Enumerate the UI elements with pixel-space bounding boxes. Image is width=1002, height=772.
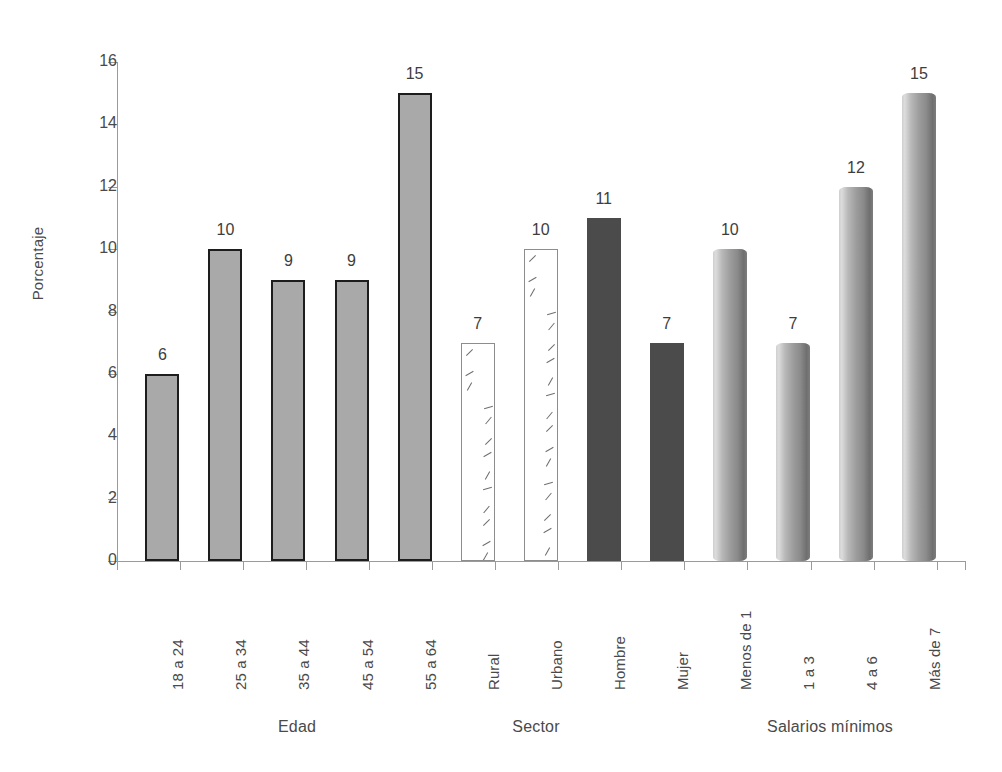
y-tick-label: 14 bbox=[77, 114, 117, 132]
x-category-label: 25 a 34 bbox=[232, 639, 249, 690]
x-category-label: Urbano bbox=[548, 640, 565, 690]
bar-mujer bbox=[650, 343, 684, 561]
x-tick-mark bbox=[432, 561, 433, 570]
hatch-dash bbox=[485, 416, 492, 424]
y-tick-label: 6 bbox=[77, 364, 117, 382]
hatch-dash bbox=[543, 528, 551, 533]
hatch-dash bbox=[529, 288, 534, 296]
hatch-dash bbox=[483, 452, 491, 457]
x-tick-mark bbox=[965, 561, 966, 570]
hatch-dash bbox=[482, 541, 490, 546]
x-tick-mark bbox=[117, 561, 118, 570]
x-category-label: Hombre bbox=[611, 636, 628, 690]
bar-value-label: 7 bbox=[763, 315, 823, 333]
x-tick-mark bbox=[621, 561, 622, 570]
hatch-dash bbox=[545, 493, 552, 501]
x-category-label: 4 a 6 bbox=[863, 656, 880, 690]
y-axis-line bbox=[117, 62, 118, 562]
bar-más-de-7 bbox=[902, 93, 936, 561]
hatch-dash bbox=[483, 519, 490, 526]
y-tick-8: 8 bbox=[0, 312, 117, 313]
x-tick-mark bbox=[495, 561, 496, 570]
x-tick-mark bbox=[306, 561, 307, 570]
hatch-dash bbox=[484, 471, 489, 479]
x-tick-mark bbox=[369, 561, 370, 570]
hatch-dash bbox=[544, 482, 553, 485]
hatch-dash bbox=[529, 255, 536, 262]
bar-value-label: 15 bbox=[889, 65, 949, 83]
bar-chart: Porcentaje 0246810121416 618 a 241025 a … bbox=[0, 0, 1002, 772]
bar-45-a-54 bbox=[335, 280, 369, 561]
bar-35-a-44 bbox=[271, 280, 305, 561]
y-axis-title: Porcentaje bbox=[29, 179, 46, 349]
x-category-label: 45 a 54 bbox=[359, 639, 376, 690]
bar-value-label: 7 bbox=[448, 315, 508, 333]
bar-value-label: 10 bbox=[700, 221, 760, 239]
x-tick-mark bbox=[937, 561, 938, 570]
bar-rural bbox=[461, 343, 495, 561]
y-tick-label: 12 bbox=[77, 177, 117, 195]
y-tick-14: 14 bbox=[0, 124, 117, 125]
x-category-label: Más de 7 bbox=[926, 628, 943, 691]
x-tick-mark bbox=[180, 561, 181, 570]
x-category-label: Menos de 1 bbox=[737, 611, 754, 690]
hatch-dash bbox=[483, 487, 492, 490]
y-tick-4: 4 bbox=[0, 436, 117, 437]
hatch-dash bbox=[546, 358, 554, 363]
bar-55-a-64 bbox=[398, 93, 432, 561]
hatch-dash bbox=[544, 514, 551, 521]
y-tick-label: 16 bbox=[77, 52, 117, 70]
bar-hombre bbox=[587, 218, 621, 561]
bar-value-label: 6 bbox=[132, 346, 192, 364]
x-category-label: 35 a 44 bbox=[295, 639, 312, 690]
x-tick-mark bbox=[558, 561, 559, 570]
bar-value-label: 10 bbox=[511, 221, 571, 239]
bar-25-a-34 bbox=[208, 249, 242, 561]
hatch-dash bbox=[465, 371, 473, 376]
y-tick-0: 0 bbox=[0, 561, 117, 562]
x-category-label: 1 a 3 bbox=[800, 656, 817, 690]
hatch-dash bbox=[528, 277, 536, 282]
group-label-salarios: Salarios mínimos bbox=[710, 718, 950, 736]
hatch-dash bbox=[545, 447, 553, 452]
x-tick-mark bbox=[874, 561, 875, 570]
hatch-dash bbox=[466, 382, 471, 390]
x-tick-mark bbox=[684, 561, 685, 570]
hatch-dash bbox=[548, 344, 555, 351]
group-label-sector: Sector bbox=[416, 718, 656, 736]
hatch-dash bbox=[547, 377, 552, 385]
bar-value-label: 9 bbox=[258, 252, 318, 270]
y-tick-label: 8 bbox=[77, 302, 117, 320]
y-tick-16: 16 bbox=[0, 62, 117, 63]
hatch-dash bbox=[548, 323, 555, 331]
y-tick-2: 2 bbox=[0, 499, 117, 500]
bar-4-a-6 bbox=[839, 187, 873, 561]
y-tick-label: 10 bbox=[77, 239, 117, 257]
hatch-dash bbox=[546, 425, 553, 432]
y-tick-6: 6 bbox=[0, 374, 117, 375]
hatch-dash bbox=[546, 412, 553, 420]
x-category-label: 18 a 24 bbox=[169, 639, 186, 690]
bar-value-label: 9 bbox=[322, 252, 382, 270]
x-tick-mark bbox=[243, 561, 244, 570]
hatch-dash bbox=[546, 393, 555, 396]
bar-18-a-24 bbox=[145, 374, 179, 561]
hatch-dash bbox=[484, 406, 493, 409]
x-category-label: Rural bbox=[485, 654, 502, 690]
bar-1-a-3 bbox=[776, 343, 810, 561]
hatch-dash bbox=[547, 312, 556, 315]
bar-value-label: 10 bbox=[195, 221, 255, 239]
bar-value-label: 7 bbox=[637, 315, 697, 333]
y-tick-10: 10 bbox=[0, 249, 117, 250]
x-category-label: 55 a 64 bbox=[422, 639, 439, 690]
hatch-dash bbox=[545, 458, 550, 466]
bar-value-label: 12 bbox=[826, 159, 886, 177]
y-tick-label: 0 bbox=[77, 551, 117, 569]
y-tick-label: 2 bbox=[77, 489, 117, 507]
y-tick-12: 12 bbox=[0, 187, 117, 188]
x-axis-line bbox=[117, 561, 965, 562]
hatch-dash bbox=[485, 438, 492, 445]
bar-menos-de-1 bbox=[713, 249, 747, 561]
bar-value-label: 15 bbox=[385, 65, 445, 83]
bar-urbano bbox=[524, 249, 558, 561]
